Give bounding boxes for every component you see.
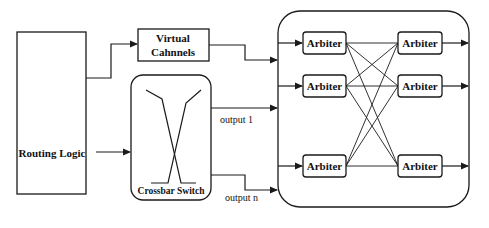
vc-to-arbiters-connector <box>209 45 277 60</box>
crossbar-switch-block: Crossbar Switch <box>131 75 211 200</box>
virtual-channels-block: Virtual Cahnnels <box>138 29 209 61</box>
routing-logic-label: Routing Logic <box>19 147 86 159</box>
routing-logic-block: Routing Logic <box>17 32 86 194</box>
output-n-label: output n <box>225 192 258 203</box>
virtual-channels-label-line1: Virtual <box>156 32 190 44</box>
crossbar-switch-label: Crossbar Switch <box>138 186 206 196</box>
router-architecture-diagram: Routing Logic Virtual Cahnnels Crossbar … <box>0 0 489 228</box>
right-arbiter-3: Arbiter <box>398 155 442 177</box>
svg-text:Arbiter: Arbiter <box>307 80 343 92</box>
left-arbiter-3: Arbiter <box>303 155 346 177</box>
output-1-label: output 1 <box>220 114 253 125</box>
output-n-connector <box>211 175 277 190</box>
right-arbiter-2: Arbiter <box>398 75 442 97</box>
svg-text:Arbiter: Arbiter <box>307 160 343 172</box>
virtual-channels-label-line2: Cahnnels <box>151 46 196 58</box>
right-arbiter-1: Arbiter <box>398 32 442 54</box>
left-arbiter-1: Arbiter <box>303 32 346 54</box>
svg-text:Arbiter: Arbiter <box>402 80 438 92</box>
svg-text:Arbiter: Arbiter <box>307 37 343 49</box>
svg-text:Arbiter: Arbiter <box>402 37 438 49</box>
routing-to-vc-connector <box>86 44 137 78</box>
svg-text:Arbiter: Arbiter <box>402 160 438 172</box>
left-arbiter-2: Arbiter <box>303 75 346 97</box>
